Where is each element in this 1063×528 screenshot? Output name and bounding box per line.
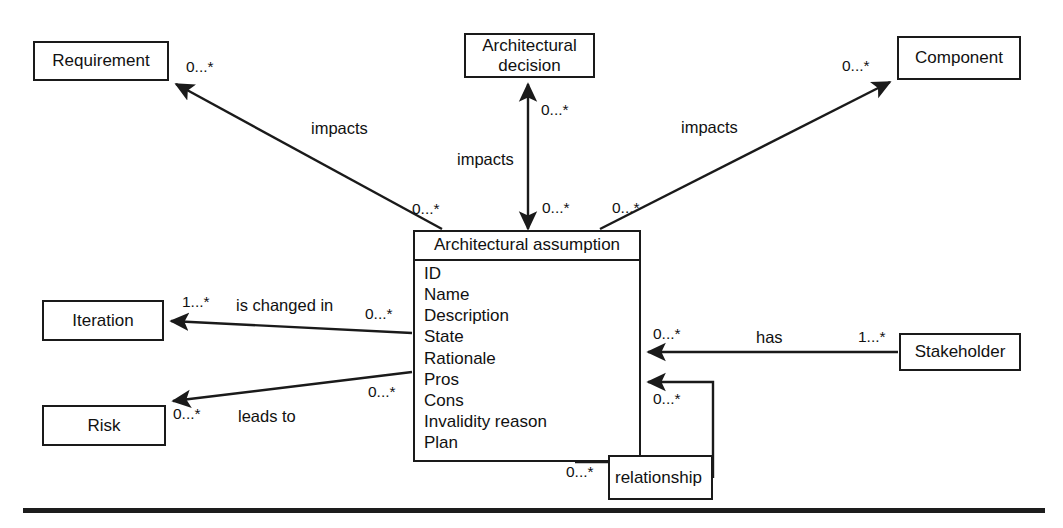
class-box-component[interactable]: Component <box>897 36 1021 80</box>
edge-label-impacts-requirement: impacts <box>311 119 368 138</box>
multiplicity-assumption-to-requirement-end: 0...* <box>412 200 440 218</box>
multiplicity-assumption-to-stakeholder-end: 0...* <box>653 325 681 343</box>
attribute-pros: Pros <box>424 369 639 390</box>
attribute-invalidity-reason: Invalidity reason <box>424 411 639 432</box>
multiplicity-assumption-to-decision-end: 0...* <box>542 199 570 217</box>
class-box-architectural-decision[interactable]: Architectural decision <box>464 33 595 78</box>
page-footer-rule <box>23 508 1045 513</box>
edge-label-impacts-component: impacts <box>681 118 738 137</box>
attribute-cons: Cons <box>424 390 639 411</box>
multiplicity-assumption-to-iteration-end: 0...* <box>365 305 393 323</box>
class-attributes-architectural-assumption: ID Name Description State Rationale Pros… <box>415 261 639 460</box>
class-name-component: Component <box>915 48 1003 67</box>
class-box-architectural-assumption[interactable]: Architectural assumption ID Name Descrip… <box>413 230 641 462</box>
edge-label-is-changed-in: is changed in <box>236 296 333 315</box>
class-box-stakeholder[interactable]: Stakeholder <box>899 333 1021 371</box>
edge-label-has: has <box>756 328 783 347</box>
multiplicity-decision-end: 0...* <box>541 101 569 119</box>
attribute-name: Name <box>424 284 639 305</box>
class-name-stakeholder: Stakeholder <box>915 342 1006 361</box>
multiplicity-component-end: 0...* <box>842 57 870 75</box>
multiplicity-relationship-bottom-end: 0...* <box>566 463 594 481</box>
class-name-architectural-decision-line1: Architectural <box>482 36 576 55</box>
multiplicity-relationship-top-end: 0...* <box>653 390 681 408</box>
class-box-risk[interactable]: Risk <box>42 405 166 446</box>
attribute-id: ID <box>424 263 639 284</box>
class-name-architectural-assumption: Architectural assumption <box>415 232 639 261</box>
multiplicity-assumption-to-component-end: 0...* <box>612 199 640 217</box>
attribute-plan: Plan <box>424 432 639 453</box>
multiplicity-assumption-to-risk-end: 0...* <box>368 383 396 401</box>
connector-assumption-impacts-requirement <box>176 84 442 229</box>
class-name-requirement: Requirement <box>52 51 149 70</box>
uml-class-diagram: Requirement Architectural decision Compo… <box>0 0 1063 528</box>
edge-label-impacts-decision: impacts <box>457 150 514 169</box>
multiplicity-requirement-end: 0...* <box>186 58 214 76</box>
attribute-rationale: Rationale <box>424 348 639 369</box>
multiplicity-risk-end: 0...* <box>173 405 201 423</box>
attribute-description: Description <box>424 305 639 326</box>
class-box-requirement[interactable]: Requirement <box>33 41 169 81</box>
connector-assumption-impacts-component <box>600 82 890 229</box>
multiplicity-iteration-end: 1...* <box>182 293 210 311</box>
attribute-state: State <box>424 326 639 347</box>
class-name-iteration: Iteration <box>72 311 133 330</box>
class-name-architectural-decision-line2: decision <box>498 56 560 75</box>
edge-label-leads-to: leads to <box>238 407 296 426</box>
class-box-relationship[interactable]: relationship <box>608 455 713 500</box>
class-name-risk: Risk <box>87 416 120 435</box>
class-name-relationship: relationship <box>615 468 702 487</box>
class-box-iteration[interactable]: Iteration <box>42 300 164 341</box>
multiplicity-stakeholder-end: 1...* <box>858 328 886 346</box>
